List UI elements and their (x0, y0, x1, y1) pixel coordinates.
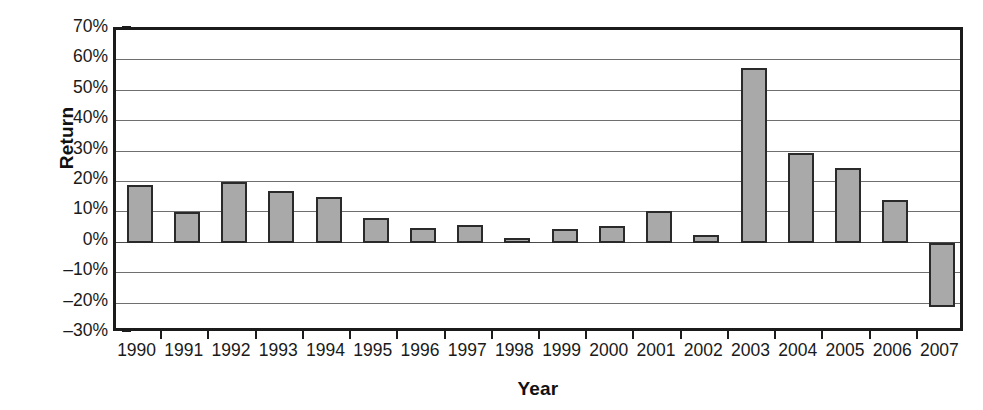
x-tick-label: 2006 (869, 340, 916, 360)
y-tick-label: 60% (30, 48, 108, 66)
bar-chart: Return 70%60%50%40%30%20%10%0%–10%–20%–3… (0, 0, 983, 410)
x-tick-label: 1997 (444, 340, 491, 360)
gridline (116, 272, 960, 273)
bar (741, 68, 767, 243)
y-tick-label: 20% (30, 170, 108, 188)
gridline (116, 303, 960, 304)
y-axis-tick-labels: 70%60%50%40%30%20%10%0%–10%–20%–30% (18, 0, 108, 410)
x-tick-mark (774, 331, 776, 339)
x-tick-mark (538, 331, 540, 339)
bar (835, 168, 861, 242)
x-tick-label: 1994 (302, 340, 349, 360)
x-tick-mark (255, 331, 257, 339)
y-tick-label: 40% (30, 109, 108, 127)
gridline (116, 59, 960, 60)
x-tick-label: 1998 (491, 340, 538, 360)
x-tick-label: 2005 (821, 340, 868, 360)
x-tick-label: 2000 (585, 340, 632, 360)
y-tick-label: 70% (30, 18, 108, 36)
gridline (116, 151, 960, 152)
x-tick-label: 1993 (255, 340, 302, 360)
x-tick-mark (869, 331, 871, 339)
x-tick-mark (916, 331, 918, 339)
x-tick-mark (207, 331, 209, 339)
x-tick-mark (632, 331, 634, 339)
bar (646, 211, 672, 243)
x-tick-mark (727, 331, 729, 339)
bar (174, 212, 200, 242)
y-tick-label: 10% (30, 200, 108, 218)
y-tick-label: –30% (30, 322, 108, 340)
x-tick-mark (680, 331, 682, 339)
x-tick-label: 2002 (680, 340, 727, 360)
x-tick-mark (396, 331, 398, 339)
x-tick-mark (491, 331, 493, 339)
bar (788, 153, 814, 243)
bar (268, 191, 294, 243)
x-tick-label: 2007 (916, 340, 963, 360)
bar (127, 185, 153, 243)
y-tick-label: 30% (30, 140, 108, 158)
x-tick-mark (302, 331, 304, 339)
bar (221, 182, 247, 243)
x-tick-label: 1990 (113, 340, 160, 360)
x-tick-label: 1992 (207, 340, 254, 360)
bar (363, 218, 389, 242)
x-tick-label: 1996 (396, 340, 443, 360)
x-axis-title: Year (113, 378, 963, 400)
y-tick-label: 50% (30, 79, 108, 97)
gridline (116, 90, 960, 91)
x-tick-label: 1995 (349, 340, 396, 360)
x-tick-label: 2003 (727, 340, 774, 360)
bar (504, 238, 530, 243)
x-tick-label: 1991 (160, 340, 207, 360)
bar (410, 228, 436, 243)
x-tick-mark (585, 331, 587, 339)
bar (693, 235, 719, 243)
y-tick-label: –10% (30, 261, 108, 279)
y-tick-label: 0% (30, 231, 108, 249)
y-tick-label: –20% (30, 292, 108, 310)
bar (882, 200, 908, 243)
x-tick-label: 1999 (538, 340, 585, 360)
x-tick-mark (349, 331, 351, 339)
x-tick-label: 2004 (774, 340, 821, 360)
bar (552, 229, 578, 243)
bar (457, 225, 483, 243)
bar (929, 243, 955, 307)
x-tick-label: 2001 (632, 340, 679, 360)
gridline (116, 120, 960, 121)
plot-area (113, 27, 963, 331)
x-tick-mark (160, 331, 162, 339)
x-tick-mark (821, 331, 823, 339)
x-tick-mark (444, 331, 446, 339)
bar (599, 226, 625, 243)
bar (316, 197, 342, 243)
